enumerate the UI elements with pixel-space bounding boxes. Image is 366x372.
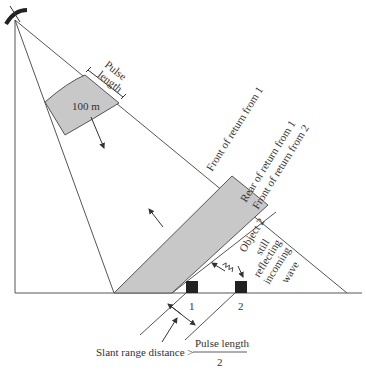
object-1 <box>186 281 198 293</box>
radar-diagram: Pulse length 100 m Front of return from … <box>0 0 366 372</box>
formula-prefix: Slant range distance > <box>96 346 194 358</box>
object-1-label: 1 <box>189 300 195 312</box>
pulse-direction-arrow <box>91 117 104 148</box>
object-2-label: 2 <box>238 300 244 312</box>
return-direction-arrow <box>149 209 163 227</box>
object-2 <box>235 281 247 293</box>
front-return-1-label: Front of return from 1 <box>204 84 266 173</box>
pulse-distance-label: 100 m <box>72 100 100 112</box>
formula-pointer-arrow <box>162 318 177 342</box>
extension-line-1 <box>140 293 186 335</box>
formula-numerator: Pulse length <box>195 337 250 349</box>
formula-denominator: 2 <box>217 356 223 368</box>
